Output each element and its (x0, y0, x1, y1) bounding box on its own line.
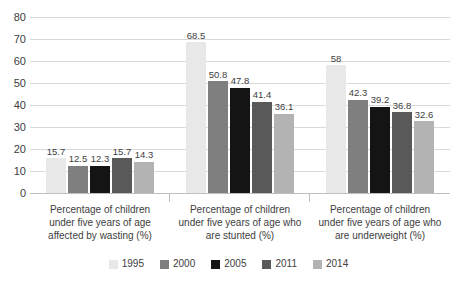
y-tick-label: 50 (14, 78, 26, 89)
grouped-bar-chart: 01020304050607080 15.712.512.315.714.368… (0, 0, 457, 286)
bar-group: 5842.339.236.832.6 (310, 17, 450, 193)
bar-value-label: 36.1 (275, 102, 294, 112)
category-label: Percentage of children under five years … (170, 203, 310, 251)
bar-slot: 15.7 (112, 17, 132, 193)
legend-label: 2014 (326, 259, 348, 269)
category-label: Percentage of children under five years … (310, 203, 450, 251)
bar-slot: 12.5 (68, 17, 88, 193)
bar-slot: 41.4 (252, 17, 272, 193)
y-tick-label: 80 (14, 12, 26, 23)
category-label: Percentage of children under five years … (30, 203, 170, 251)
legend-swatch-icon (262, 260, 271, 269)
bar-value-label: 15.7 (47, 147, 66, 157)
legend-item[interactable]: 2000 (160, 259, 195, 269)
bar[interactable] (370, 107, 390, 193)
legend-label: 2000 (173, 259, 195, 269)
bar-value-label: 12.5 (69, 154, 88, 164)
y-tick-label: 20 (14, 144, 26, 155)
y-axis: 01020304050607080 (0, 17, 28, 193)
bar-value-label: 68.5 (187, 31, 206, 41)
y-tick-label: 10 (14, 166, 26, 177)
bar[interactable] (326, 65, 346, 193)
bar[interactable] (186, 42, 206, 193)
bar[interactable] (112, 158, 132, 193)
bar[interactable] (208, 81, 228, 193)
bar-value-label: 14.3 (135, 150, 154, 160)
bar-group: 15.712.512.315.714.3 (30, 17, 170, 193)
bar-value-label: 41.4 (253, 90, 272, 100)
bar-slot: 58 (326, 17, 346, 193)
legend-swatch-icon (109, 260, 118, 269)
legend-item[interactable]: 2014 (313, 259, 348, 269)
bar[interactable] (68, 166, 88, 194)
bar-slot: 36.8 (392, 17, 412, 193)
bar-slot: 42.3 (348, 17, 368, 193)
y-tick-label: 40 (14, 100, 26, 111)
bar[interactable] (252, 102, 272, 193)
bar-value-label: 50.8 (209, 70, 228, 80)
bar-slot: 14.3 (134, 17, 154, 193)
legend-label: 2011 (275, 259, 297, 269)
bars: 68.550.847.841.436.1 (170, 17, 310, 193)
category-labels: Percentage of children under five years … (30, 203, 450, 251)
bar-slot: 15.7 (46, 17, 66, 193)
bar-group: 68.550.847.841.436.1 (170, 17, 310, 193)
legend-label: 2005 (224, 259, 246, 269)
y-tick-label: 60 (14, 56, 26, 67)
category-separator (169, 193, 170, 202)
bar-groups: 15.712.512.315.714.368.550.847.841.436.1… (30, 17, 450, 193)
legend-swatch-icon (160, 260, 169, 269)
bar-value-label: 58 (331, 54, 342, 64)
legend: 19952000200520112014 (0, 259, 457, 269)
y-tick-label: 30 (14, 122, 26, 133)
bar-slot: 39.2 (370, 17, 390, 193)
bar[interactable] (230, 88, 250, 193)
bar-value-label: 47.8 (231, 76, 250, 86)
category-separator (309, 193, 310, 202)
legend-label: 1995 (122, 259, 144, 269)
bar[interactable] (414, 121, 434, 193)
y-tick-label: 0 (20, 188, 26, 199)
bar-value-label: 36.8 (393, 101, 412, 111)
bar[interactable] (274, 114, 294, 193)
bar-slot: 32.6 (414, 17, 434, 193)
legend-item[interactable]: 2005 (211, 259, 246, 269)
bar[interactable] (90, 166, 110, 193)
bar-value-label: 42.3 (349, 88, 368, 98)
bar[interactable] (392, 112, 412, 193)
bar[interactable] (348, 100, 368, 193)
bar-slot: 12.3 (90, 17, 110, 193)
bar-slot: 50.8 (208, 17, 228, 193)
bar-slot: 68.5 (186, 17, 206, 193)
axis-line-zero (30, 193, 450, 194)
legend-swatch-icon (313, 260, 322, 269)
bar-value-label: 32.6 (415, 110, 434, 120)
bar[interactable] (134, 162, 154, 193)
legend-swatch-icon (211, 260, 220, 269)
bar-value-label: 15.7 (113, 147, 132, 157)
bar-slot: 36.1 (274, 17, 294, 193)
bars: 5842.339.236.832.6 (310, 17, 450, 193)
bar[interactable] (46, 158, 66, 193)
y-tick-label: 70 (14, 34, 26, 45)
legend-item[interactable]: 1995 (109, 259, 144, 269)
bar-value-label: 12.3 (91, 154, 110, 164)
bar-slot: 47.8 (230, 17, 250, 193)
plot-area: 15.712.512.315.714.368.550.847.841.436.1… (30, 17, 450, 193)
legend-item[interactable]: 2011 (262, 259, 297, 269)
bars: 15.712.512.315.714.3 (30, 17, 170, 193)
bar-value-label: 39.2 (371, 95, 390, 105)
